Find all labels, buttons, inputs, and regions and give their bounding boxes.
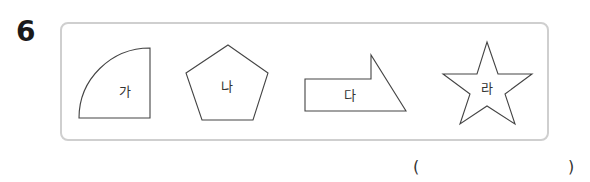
shape-ga-label: 가	[119, 84, 131, 99]
shape-da[interactable]: 다	[305, 55, 406, 111]
shape-da-label: 다	[344, 88, 356, 103]
shape-ga[interactable]: 가	[79, 48, 150, 118]
shapes-canvas: 가 나 다 라	[0, 0, 590, 182]
answer-open-paren: (	[413, 157, 419, 176]
shape-na[interactable]: 나	[186, 45, 268, 120]
answer-close-paren: )	[568, 157, 574, 176]
shape-ra-label: 라	[481, 81, 493, 96]
shape-ra[interactable]: 라	[443, 42, 532, 124]
shape-na-label: 나	[221, 79, 233, 94]
answer-blank[interactable]	[430, 157, 560, 177]
